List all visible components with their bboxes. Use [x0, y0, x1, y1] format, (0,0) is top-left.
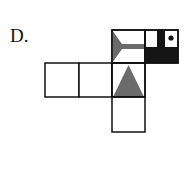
cube-net-diagram — [0, 0, 186, 176]
face-arrow — [112, 30, 145, 63]
face-triangle — [112, 63, 145, 97]
black-bar-icon — [157, 30, 165, 47]
face-black-pattern — [145, 30, 178, 63]
face-blank-1 — [45, 63, 79, 97]
dot-icon — [168, 35, 173, 40]
face-blank-bottom — [112, 97, 145, 132]
face-blank-2 — [79, 63, 112, 97]
black-bottom-half-icon — [145, 47, 178, 63]
